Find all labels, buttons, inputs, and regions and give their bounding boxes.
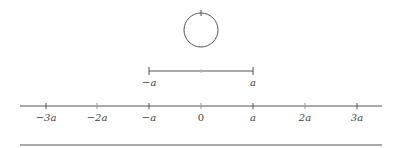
tick-label-nega: −a (142, 112, 156, 123)
number-axis: −3a −2a −a 0 a 2a 3a (20, 103, 382, 123)
tick-label-a: a (250, 112, 256, 123)
segment: −a a (142, 67, 256, 88)
tick-label-neg2a: −2a (87, 112, 108, 123)
segment-left-label: −a (142, 77, 156, 88)
tick-label-3a: 3a (351, 112, 363, 123)
tick-label-zero: 0 (198, 112, 204, 123)
tick-label-neg3a: −3a (36, 112, 57, 123)
segment-right-label: a (250, 77, 256, 88)
tick-label-2a: 2a (298, 112, 311, 123)
circle (184, 13, 218, 47)
diagram-canvas: −a a −3a −2a −a 0 a 2a 3a (0, 0, 400, 148)
